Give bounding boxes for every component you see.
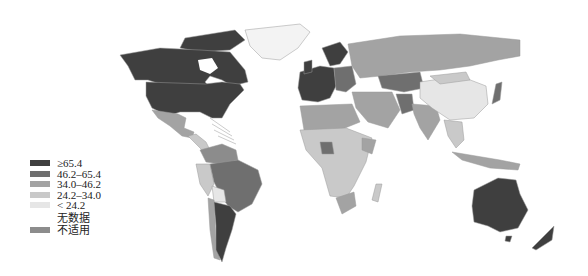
region-nigeria xyxy=(320,142,334,154)
region-australia xyxy=(472,178,528,232)
region-japan xyxy=(492,82,502,104)
region-western-europe xyxy=(298,66,336,102)
legend-label: < 24.2 xyxy=(57,200,85,210)
legend-item: 无数据 xyxy=(30,213,101,224)
legend-swatch xyxy=(30,215,50,221)
region-argentina xyxy=(214,202,236,262)
region-sub-saharan-africa xyxy=(300,128,372,198)
legend-label: ≥65.4 xyxy=(57,158,82,168)
legend-label: 46.2–65.4 xyxy=(57,169,101,179)
legend-label: 无数据 xyxy=(57,213,90,223)
legend-label: 34.0–46.2 xyxy=(57,179,101,189)
legend: ≥65.4 46.2–65.4 34.0–46.2 24.2–34.0 < 24… xyxy=(30,158,101,236)
legend-swatch xyxy=(30,181,50,187)
region-tasmania xyxy=(505,236,512,242)
region-central-america xyxy=(188,134,210,150)
region-madagascar xyxy=(372,184,382,202)
region-eastern-europe xyxy=(334,66,356,92)
region-mexico xyxy=(152,110,194,138)
region-greenland xyxy=(245,24,310,60)
legend-swatch xyxy=(30,202,50,208)
region-scandinavia xyxy=(322,42,348,66)
legend-swatch xyxy=(30,227,50,233)
region-southeast-asia xyxy=(444,120,464,148)
legend-label: 24.2–34.0 xyxy=(57,190,101,200)
legend-item: 34.0–46.2 xyxy=(30,179,101,190)
region-north-africa xyxy=(300,104,360,130)
caribbean-hatch xyxy=(210,118,236,144)
region-new-zealand xyxy=(532,226,554,250)
legend-swatch xyxy=(30,192,50,198)
region-uk xyxy=(304,60,312,74)
region-canada-arctic xyxy=(180,30,245,52)
legend-swatch xyxy=(30,160,50,166)
region-middle-east xyxy=(352,92,400,128)
legend-item: ≥65.4 xyxy=(30,158,101,169)
legend-item: 不适用 xyxy=(30,225,101,236)
region-indonesia xyxy=(452,152,520,170)
legend-item: < 24.2 xyxy=(30,200,101,211)
legend-swatch xyxy=(30,171,50,177)
legend-label: 不适用 xyxy=(57,225,90,235)
region-russia xyxy=(348,34,520,78)
